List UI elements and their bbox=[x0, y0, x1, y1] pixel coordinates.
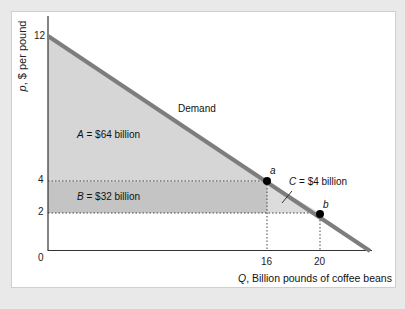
x-tick-20: 20 bbox=[314, 256, 325, 267]
chart-plot bbox=[0, 0, 405, 309]
region-a-value: = $64 billion bbox=[84, 129, 140, 140]
point-a-marker bbox=[263, 177, 271, 185]
demand-label: Demand bbox=[178, 103, 216, 114]
y-tick-2: 2 bbox=[38, 206, 44, 217]
y-tick-0: 0 bbox=[38, 252, 44, 263]
x-axis-unit: , Billion pounds of coffee beans bbox=[246, 272, 392, 284]
point-a-label: a bbox=[270, 165, 276, 176]
y-tick-12: 12 bbox=[34, 30, 45, 41]
point-b-marker bbox=[316, 210, 324, 218]
y-tick-4: 4 bbox=[38, 174, 44, 185]
x-axis-var: Q bbox=[238, 272, 246, 284]
region-a-var: A bbox=[77, 129, 84, 140]
region-c-label: C = $4 billion bbox=[289, 176, 347, 187]
y-axis-var: p bbox=[16, 85, 28, 91]
y-axis-label: p, $ per pound bbox=[16, 21, 28, 92]
region-b-var: B bbox=[77, 191, 84, 202]
point-b-label: b bbox=[323, 199, 329, 210]
region-b-value: = $32 billion bbox=[84, 191, 140, 202]
region-a-label: A = $64 billion bbox=[77, 129, 140, 140]
region-c-value: = $4 billion bbox=[296, 176, 347, 187]
y-axis-unit: , $ per pound bbox=[16, 21, 28, 86]
x-tick-16: 16 bbox=[261, 256, 272, 267]
region-b-label: B = $32 billion bbox=[77, 191, 140, 202]
x-axis-label: Q, Billion pounds of coffee beans bbox=[238, 272, 392, 284]
